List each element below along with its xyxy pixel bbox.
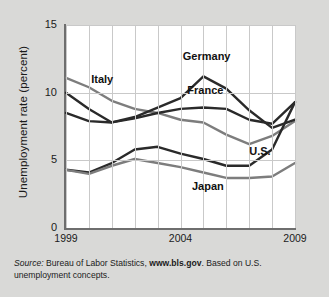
- vertical-gridline: [112, 25, 113, 228]
- y-axis-title: Unemployment rate (percent): [17, 22, 29, 222]
- vertical-gridline: [249, 25, 250, 228]
- caption-source-label: Source:: [14, 258, 44, 268]
- vertical-gridline: [295, 25, 296, 228]
- series-label-italy: Italy: [91, 73, 113, 85]
- vertical-gridline: [89, 25, 90, 228]
- source-caption: Source: Bureau of Labor Statistics, www.…: [14, 258, 314, 281]
- horizontal-gridline: [66, 25, 295, 26]
- y-tick-label: 15: [17, 18, 57, 30]
- y-tick-label: 5: [17, 153, 57, 165]
- vertical-gridline: [272, 25, 273, 228]
- caption-agency: Bureau of Labor Statistics,: [44, 258, 150, 268]
- series-label-germany: Germany: [183, 50, 231, 62]
- x-tick-label: 2004: [151, 232, 211, 244]
- vertical-gridline: [158, 25, 159, 228]
- series-label-us: U.S.: [249, 145, 270, 157]
- x-tick-label: 1999: [36, 232, 96, 244]
- vertical-gridline: [181, 25, 182, 228]
- vertical-gridline: [66, 25, 67, 228]
- x-tick-label: 2009: [265, 232, 325, 244]
- chart-figure: Unemployment rate (percent) 051015 19992…: [0, 0, 329, 297]
- x-axis-line: [64, 228, 296, 230]
- horizontal-gridline: [66, 93, 295, 94]
- vertical-gridline: [135, 25, 136, 228]
- series-label-france: France: [187, 84, 223, 96]
- y-tick-label: 10: [17, 86, 57, 98]
- horizontal-gridline: [66, 160, 295, 161]
- plot-area: [66, 25, 295, 228]
- series-label-japan: Japan: [192, 180, 224, 192]
- caption-url[interactable]: www.bls.gov: [149, 258, 201, 268]
